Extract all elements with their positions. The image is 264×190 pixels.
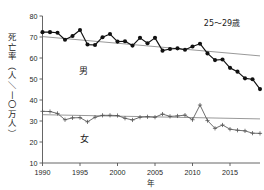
female-data-point	[145, 115, 149, 119]
y-axis-title-char: ）	[7, 129, 17, 137]
female-data-point	[250, 131, 254, 135]
male-data-point	[190, 44, 194, 48]
y-axis-title-char: 亡	[8, 42, 16, 52]
chart-canvas: 1020304050607080 19901995200020052010201…	[0, 0, 264, 190]
male-series-label: 男	[79, 66, 88, 76]
female-data-point	[243, 129, 247, 133]
x-axis-ticks: 199019952000200520102015	[35, 163, 239, 177]
female-series-label: 女	[80, 133, 89, 144]
male-data-point	[130, 44, 134, 48]
female-data-point	[130, 118, 134, 122]
male-data-point	[198, 42, 202, 46]
y-axis-title-char: 人	[8, 118, 17, 128]
female-data-point	[138, 115, 142, 119]
female-data-point	[220, 123, 224, 127]
female-data-point	[40, 109, 44, 113]
male-data-point	[70, 34, 74, 38]
female-data-point	[183, 113, 187, 117]
male-trend-line	[43, 37, 261, 56]
y-tick-label: 50	[30, 75, 38, 84]
male-data-point	[100, 35, 104, 39]
male-data-point	[220, 57, 224, 61]
female-data-point	[228, 127, 232, 131]
female-data-point	[235, 128, 239, 132]
male-data-point	[78, 28, 82, 32]
male-data-point	[93, 43, 97, 47]
male-data-point	[63, 38, 67, 42]
male-data-point	[235, 70, 239, 74]
female-data-point	[70, 116, 74, 120]
x-tick-label: 2005	[147, 168, 163, 177]
female-data-point	[85, 120, 89, 124]
female-data-point	[198, 103, 202, 107]
male-data-point	[250, 77, 254, 81]
x-tick-label: 2015	[222, 168, 238, 177]
female-data-point	[108, 113, 112, 117]
y-tick-label: 10	[30, 159, 38, 168]
y-tick-label: 70	[30, 33, 38, 42]
male-data-point	[205, 51, 209, 55]
mortality-rate-chart: 1020304050607080 19901995200020052010201…	[0, 0, 264, 190]
y-axis-title-char: 万	[8, 109, 16, 119]
male-data-point	[55, 31, 59, 35]
female-data-point	[115, 113, 119, 117]
y-axis-title-char: ／	[7, 81, 17, 90]
male-data-point	[153, 36, 157, 40]
female-data-point	[258, 131, 262, 135]
female-data-point	[190, 118, 194, 122]
female-data-point	[100, 113, 104, 117]
female-series-markers	[40, 103, 262, 136]
y-tick-label: 60	[30, 54, 38, 63]
y-axis-title-char: 人	[8, 70, 17, 80]
male-data-point	[123, 39, 127, 43]
y-tick-label: 40	[30, 96, 38, 105]
y-axis-title-char: 率	[8, 51, 16, 61]
y-axis-title-char: 〇	[8, 99, 16, 109]
female-data-point	[160, 112, 164, 116]
female-series-line	[43, 105, 261, 133]
male-data-point	[138, 36, 142, 40]
female-data-point	[123, 116, 127, 120]
male-series-line	[43, 30, 261, 89]
male-data-point	[85, 43, 89, 47]
x-tick-label: 2000	[110, 168, 126, 177]
female-data-point	[168, 114, 172, 118]
male-data-point	[145, 41, 149, 45]
male-data-point	[213, 58, 217, 62]
male-data-point	[115, 40, 119, 44]
male-data-point	[168, 47, 172, 51]
x-tick-label: 2010	[185, 168, 201, 177]
y-axis-title: 死亡率（人／一〇万人）	[7, 32, 17, 137]
y-tick-label: 20	[30, 138, 38, 147]
y-axis-ticks: 1020304050607080	[30, 12, 43, 168]
male-data-point	[228, 66, 232, 70]
male-data-point	[258, 87, 262, 91]
male-data-point	[160, 49, 164, 53]
male-data-point	[48, 30, 52, 34]
female-data-point	[153, 115, 157, 119]
age-group-annotation: 25〜29歳	[204, 18, 240, 28]
y-tick-label: 80	[30, 12, 38, 21]
male-series-markers	[40, 28, 262, 91]
male-data-point	[40, 30, 44, 34]
x-tick-label: 1995	[72, 168, 88, 177]
y-axis-title-char: 死	[8, 32, 17, 42]
y-tick-label: 30	[30, 117, 38, 126]
male-data-point	[183, 48, 187, 52]
x-axis-title: 年	[147, 178, 155, 188]
female-data-point	[78, 116, 82, 120]
female-data-point	[48, 109, 52, 113]
male-data-point	[243, 76, 247, 80]
plot-layer	[40, 28, 262, 135]
male-data-point	[108, 32, 112, 36]
x-tick-label: 1990	[35, 168, 51, 177]
y-axis-title-char: （	[7, 62, 17, 70]
male-data-point	[175, 46, 179, 50]
